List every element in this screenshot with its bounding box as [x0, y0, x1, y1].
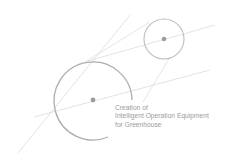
logo-diagram: Creation of Intelligent Operation Equipm… — [0, 0, 245, 165]
tangent-line-upper — [85, 22, 150, 62]
caption-text: Creation of Intelligent Operation Equipm… — [115, 104, 209, 129]
small-circle-center-dot — [162, 37, 167, 42]
large-circle-center-dot — [91, 98, 96, 103]
geometric-construction — [0, 0, 245, 165]
caption-line-2: Intelligent Operation Equipment — [115, 112, 209, 120]
caption-line-3: for Greenhouse — [115, 121, 209, 129]
diagonal-line — [18, 15, 130, 153]
caption-line-1: Creation of — [115, 104, 209, 112]
tangent-line-lower — [143, 57, 170, 102]
